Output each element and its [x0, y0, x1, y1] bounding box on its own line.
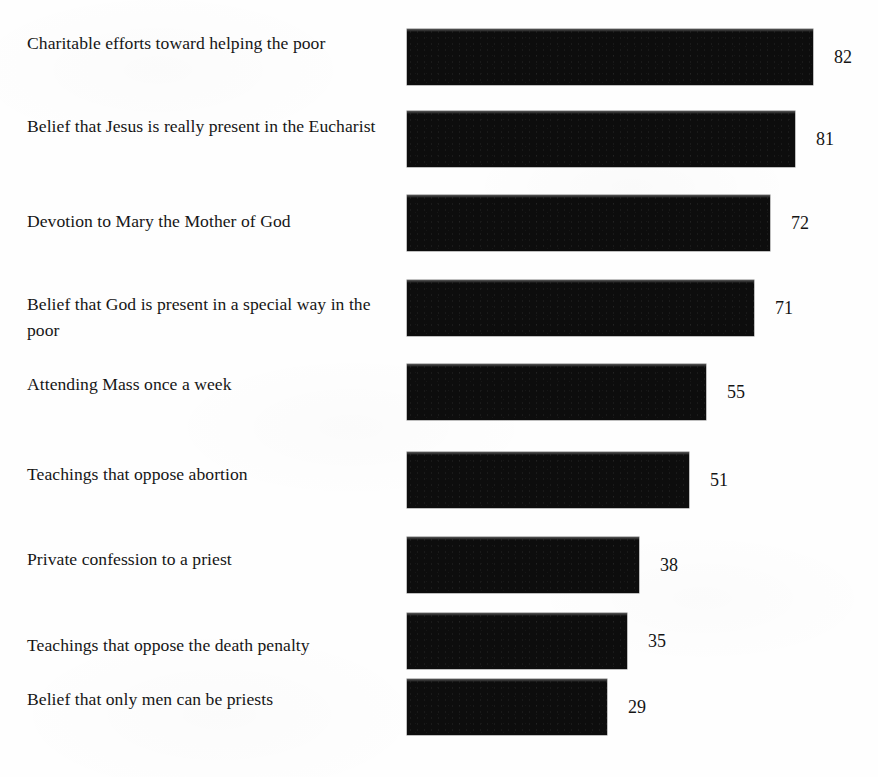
bar-1	[407, 29, 813, 85]
bar-value-label-1: 82	[834, 48, 852, 66]
category-label-1: Charitable efforts toward helping the po…	[27, 30, 389, 56]
bar-4	[407, 280, 754, 336]
bar-value-label-6: 51	[710, 471, 728, 489]
bar-9	[407, 679, 607, 735]
bar-value-label-4: 71	[775, 299, 793, 317]
bar-3	[407, 195, 770, 251]
bar-highlight	[407, 111, 795, 114]
bar-highlight	[407, 613, 627, 616]
bar-value-label-2: 81	[816, 130, 834, 148]
horizontal-bar-chart: Charitable efforts toward helping the po…	[0, 0, 878, 777]
bar-value-label-9: 29	[628, 698, 646, 716]
category-label-3: Devotion to Mary the Mother of God	[27, 208, 389, 234]
bar-highlight	[407, 29, 813, 32]
category-label-6: Teachings that oppose abortion	[27, 461, 389, 487]
category-label-8: Teachings that oppose the death penalty	[27, 632, 389, 658]
category-label-5: Attending Mass once a week	[27, 371, 389, 397]
bar-5	[407, 364, 706, 420]
bar-value-label-8: 35	[648, 632, 666, 650]
category-label-9: Belief that only men can be priests	[27, 686, 389, 712]
bar-highlight	[407, 537, 639, 540]
bar-highlight	[407, 280, 754, 283]
category-label-4: Belief that God is present in a special …	[27, 291, 389, 343]
bar-highlight	[407, 195, 770, 198]
category-label-2: Belief that Jesus is really present in t…	[27, 113, 389, 139]
bar-2	[407, 111, 795, 167]
bar-highlight	[407, 364, 706, 367]
bar-value-label-3: 72	[791, 214, 809, 232]
category-label-7: Private confession to a priest	[27, 546, 389, 572]
bar-8	[407, 613, 627, 669]
bar-highlight	[407, 452, 689, 455]
bar-7	[407, 537, 639, 593]
bar-value-label-5: 55	[727, 383, 745, 401]
bar-value-label-7: 38	[660, 556, 678, 574]
bar-highlight	[407, 679, 607, 682]
bar-6	[407, 452, 689, 508]
